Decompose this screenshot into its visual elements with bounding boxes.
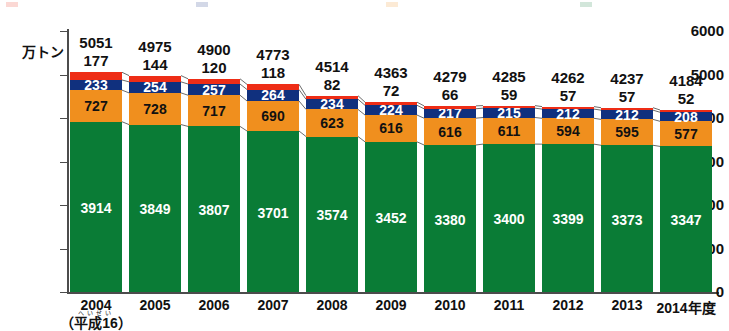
segment-value-red-2009: 72 xyxy=(359,83,423,98)
connector-line xyxy=(594,118,601,119)
segment-value-green-2007: 3701 xyxy=(247,206,299,220)
legend-swatch-orange xyxy=(386,2,398,7)
bar-2006: 38077172571204900 xyxy=(188,79,240,292)
y-tick-label-6000: 6000 xyxy=(668,23,724,38)
connector-line xyxy=(358,99,365,105)
segment-value-red-2011: 59 xyxy=(477,87,541,102)
bar-segment-red-2007 xyxy=(247,84,299,89)
segment-value-orange-2012: 594 xyxy=(542,124,594,138)
legend-swatch-green xyxy=(580,2,592,7)
segment-value-navy-2006: 257 xyxy=(188,83,240,97)
segment-value-red-2012: 57 xyxy=(536,88,600,103)
connector-line xyxy=(299,101,306,109)
segment-value-red-2014年度: 52 xyxy=(654,91,718,106)
segment-value-red-2013: 57 xyxy=(595,89,659,104)
legend xyxy=(0,0,724,9)
y-tick-6000 xyxy=(60,31,68,32)
bar-segment-red-2010 xyxy=(424,106,476,109)
connector-line xyxy=(476,118,483,119)
connector-line xyxy=(122,80,129,82)
connector-line xyxy=(594,107,601,108)
connector-line xyxy=(181,93,188,95)
bar-segment-red-2009 xyxy=(365,102,417,105)
segment-value-navy-2004: 233 xyxy=(70,78,122,92)
segment-value-orange-2006: 717 xyxy=(188,104,240,118)
connector-line xyxy=(594,109,601,110)
bar-total-2007: 4773 xyxy=(241,47,305,62)
connector-line xyxy=(358,109,365,115)
y-tick-1000 xyxy=(60,249,68,250)
x-label-2011: 2011 xyxy=(477,297,541,313)
bar-total-2010: 4279 xyxy=(418,69,482,84)
segment-value-green-2012: 3399 xyxy=(542,212,594,226)
y-tick-0 xyxy=(60,292,68,293)
bar-2013: 3373595212574237 xyxy=(601,108,653,292)
connector-line xyxy=(240,95,247,101)
segment-value-green-2011: 3400 xyxy=(483,212,535,226)
segment-value-orange-2014年度: 577 xyxy=(660,127,712,141)
bar-segment-red-2005 xyxy=(129,76,181,82)
connector-line xyxy=(417,142,424,145)
segment-value-green-2013: 3373 xyxy=(601,213,653,227)
bar-segment-red-2012 xyxy=(542,107,594,109)
segment-value-orange-2013: 595 xyxy=(601,125,653,139)
bar-2004: 39147272331775051 xyxy=(70,72,122,292)
connector-line xyxy=(535,106,542,107)
bar-segment-red-2008 xyxy=(306,96,358,100)
connector-line xyxy=(181,76,188,79)
segment-value-green-2008: 3574 xyxy=(306,208,358,222)
segment-value-green-2014年度: 3347 xyxy=(660,213,712,227)
bar-total-2011: 4285 xyxy=(477,69,541,84)
x-label-2008: 2008 xyxy=(300,297,364,313)
x-label-era-sub: へいせい（平成16） xyxy=(54,310,138,330)
era-main-text: （平成16） xyxy=(54,316,138,330)
bar-2005: 38497282541444975 xyxy=(129,76,181,292)
connector-line xyxy=(122,122,129,125)
connector-line xyxy=(181,125,188,127)
segment-value-navy-2008: 234 xyxy=(306,97,358,111)
connector-line xyxy=(417,102,424,106)
bar-segment-red-2011 xyxy=(483,106,535,109)
connector-line xyxy=(476,108,483,109)
connector-line xyxy=(358,137,365,142)
y-tick-5000 xyxy=(60,75,68,76)
connector-line xyxy=(653,108,660,110)
bar-segment-red-2013 xyxy=(601,108,653,110)
segment-value-green-2010: 3380 xyxy=(424,213,476,227)
y-tick-2000 xyxy=(60,205,68,206)
x-label-2007: 2007 xyxy=(241,297,305,313)
bar-total-2009: 4363 xyxy=(359,65,423,80)
segment-value-red-2006: 120 xyxy=(182,60,246,75)
segment-value-red-2008: 82 xyxy=(300,77,364,92)
bar-2007: 37016902641184773 xyxy=(247,84,299,292)
segment-value-green-2009: 3452 xyxy=(365,211,417,225)
y-axis-unit-label: 万トン xyxy=(8,41,64,61)
segment-value-red-2004: 177 xyxy=(64,53,128,68)
connector-line xyxy=(535,118,542,119)
segment-value-orange-2005: 728 xyxy=(129,102,181,116)
connector-line xyxy=(122,72,129,75)
connector-line xyxy=(535,108,542,109)
connector-line xyxy=(240,126,247,131)
segment-value-orange-2009: 616 xyxy=(365,121,417,135)
segment-value-orange-2008: 623 xyxy=(306,116,358,130)
bar-2012: 3399594212574262 xyxy=(542,107,594,292)
legend-swatch-navy xyxy=(196,2,208,7)
segment-value-red-2007: 118 xyxy=(241,65,305,80)
connector-line xyxy=(594,144,601,145)
legend-swatch-red xyxy=(6,2,18,7)
y-tick-3000 xyxy=(60,162,68,163)
bar-total-2005: 4975 xyxy=(123,39,187,54)
connector-line xyxy=(240,84,247,89)
connector-line xyxy=(653,119,660,121)
connector-line xyxy=(653,110,660,112)
bar-2011: 3400611215594285 xyxy=(483,106,535,292)
segment-value-green-2004: 3914 xyxy=(70,201,122,215)
connector-line xyxy=(417,105,424,108)
bar-total-2008: 4514 xyxy=(300,59,364,74)
bar-total-2014年度: 4184 xyxy=(654,73,718,88)
segment-value-orange-2011: 611 xyxy=(483,124,535,138)
segment-value-navy-2005: 254 xyxy=(129,80,181,94)
y-tick-4000 xyxy=(60,118,68,119)
